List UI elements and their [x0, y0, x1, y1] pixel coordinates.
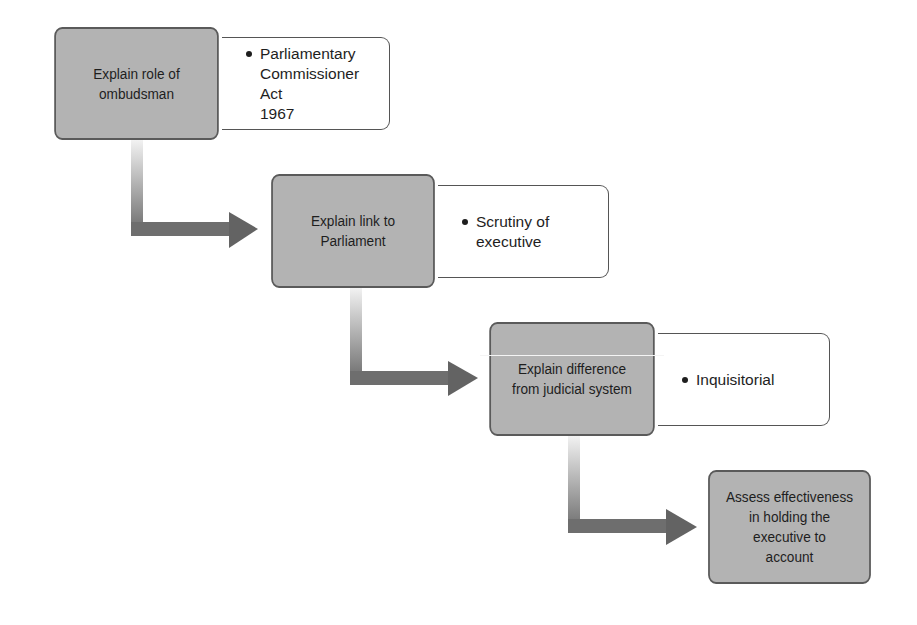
step-4-label: Assess effectiveness in holding the exec… [726, 487, 853, 567]
step-1-note: Parliamentary Commissioner Act 1967 [222, 37, 390, 130]
step-1-note-text: Parliamentary Commissioner Act 1967 [246, 44, 379, 124]
step-3-note: Inquisitorial [658, 333, 830, 426]
step-3-note-text: Inquisitorial [682, 370, 774, 390]
step-2-box: Explain link to Parliament [271, 174, 435, 288]
step-4-box: Assess effectiveness in holding the exec… [708, 470, 871, 584]
step-3-label: Explain difference from judicial system [512, 359, 632, 399]
step-3-box: Explain difference from judicial system [489, 322, 654, 436]
arrow-2 [350, 288, 478, 396]
step-2-note-text: Scrutiny of executive [462, 212, 549, 252]
step-1-box: Explain role of ombudsman [54, 27, 219, 140]
step-2-label: Explain link to Parliament [311, 211, 395, 251]
scan-artifact-line [480, 355, 664, 356]
arrow-3 [568, 436, 697, 545]
arrow-1 [131, 140, 258, 248]
step-2-note: Scrutiny of executive [438, 185, 609, 278]
step-1-label: Explain role of ombudsman [93, 64, 179, 104]
